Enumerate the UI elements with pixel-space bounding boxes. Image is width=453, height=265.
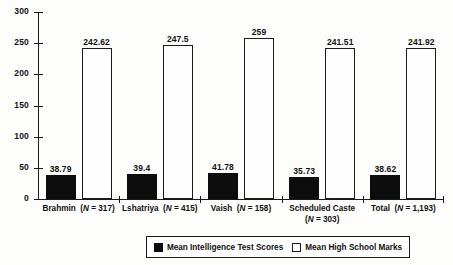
bar-value-label: 38.62 bbox=[375, 164, 397, 174]
legend-label: Mean Intelligence Test Scores bbox=[167, 243, 283, 252]
x-axis-category-label: Scheduled Caste(N = 303) bbox=[282, 203, 363, 225]
bar-groups: 38.79242.6239.4247.541.7825935.73241.513… bbox=[38, 12, 444, 200]
bar-high-school-marks: 247.5 bbox=[163, 45, 193, 199]
chart-legend: Mean Intelligence Test Scores Mean High … bbox=[146, 236, 410, 258]
bar-chart: 050100150200250300 38.79242.6239.4247.54… bbox=[0, 0, 453, 265]
bar-intelligence-score: 38.62 bbox=[370, 175, 400, 199]
bar-value-label: 35.73 bbox=[293, 166, 315, 176]
bar-intelligence-score: 38.79 bbox=[46, 175, 76, 199]
bar-group: 38.62241.92 bbox=[370, 12, 436, 199]
x-axis-category-label: Brahmin (N = 317) bbox=[38, 203, 119, 214]
bar-intelligence-score: 39.4 bbox=[127, 174, 157, 199]
legend-item-marks: Mean High School Marks bbox=[292, 243, 402, 252]
bar-high-school-marks: 241.92 bbox=[406, 48, 436, 199]
bar-intelligence-score: 41.78 bbox=[208, 173, 238, 199]
legend-label: Mean High School Marks bbox=[305, 243, 402, 252]
bar-value-label: 241.92 bbox=[408, 37, 435, 47]
legend-swatch-outlined-square-icon bbox=[292, 243, 301, 252]
bar-high-school-marks: 242.62 bbox=[82, 48, 112, 199]
y-axis-tick-label: 0 bbox=[24, 194, 29, 203]
bar-high-school-marks: 241.51 bbox=[325, 48, 355, 199]
bar-group: 39.4247.5 bbox=[127, 12, 193, 199]
y-axis-tick-label: 150 bbox=[14, 101, 29, 110]
bar-group: 41.78259 bbox=[208, 12, 274, 199]
x-axis-category-label: Vaish (N = 158) bbox=[200, 203, 281, 214]
bar-value-label: 38.79 bbox=[50, 164, 72, 174]
bar-value-label: 39.4 bbox=[133, 163, 150, 173]
y-axis-tick-label: 250 bbox=[14, 38, 29, 47]
plot-area: 050100150200250300 38.79242.6239.4247.54… bbox=[38, 12, 444, 200]
bar-intelligence-score: 35.73 bbox=[289, 177, 319, 199]
y-axis-tick-label: 100 bbox=[14, 132, 29, 141]
bar-group: 38.79242.62 bbox=[46, 12, 112, 199]
x-axis-category-label: Lshatriya (N = 415) bbox=[119, 203, 200, 214]
y-axis-tick-label: 300 bbox=[14, 7, 29, 16]
legend-item-intelligence: Mean Intelligence Test Scores bbox=[154, 243, 283, 252]
bar-value-label: 241.51 bbox=[327, 37, 354, 47]
bar-group: 35.73241.51 bbox=[289, 12, 355, 199]
legend-swatch-filled-square-icon bbox=[154, 243, 163, 252]
bar-high-school-marks: 259 bbox=[244, 38, 274, 199]
x-axis-labels: Brahmin (N = 317)Lshatriya (N = 415)Vais… bbox=[38, 203, 444, 233]
bar-value-label: 259 bbox=[252, 27, 266, 37]
y-axis-tick-label: 50 bbox=[19, 163, 29, 172]
x-axis-category-label: Total (N = 1,193) bbox=[363, 203, 444, 214]
y-axis-tick-label: 200 bbox=[14, 69, 29, 78]
bar-value-label: 41.78 bbox=[212, 162, 234, 172]
bar-value-label: 247.5 bbox=[167, 34, 189, 44]
bar-value-label: 242.62 bbox=[83, 37, 110, 47]
